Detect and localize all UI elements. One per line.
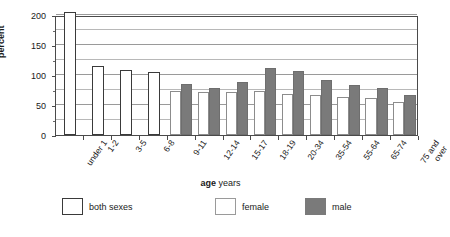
bar-group — [112, 17, 140, 135]
bar-male — [321, 80, 332, 135]
bar-group — [335, 17, 363, 135]
y-axis-title: percent — [0, 25, 6, 58]
bar-group — [224, 17, 252, 135]
bar-series-container — [56, 17, 417, 135]
bar-both-sexes — [148, 72, 160, 135]
y-tick-label: 150 — [31, 41, 46, 51]
x-tick-label: 9-11 — [191, 138, 209, 157]
bar-male — [265, 68, 276, 135]
bar-male — [404, 95, 415, 135]
bar-group — [168, 17, 196, 135]
bar-group — [251, 17, 279, 135]
x-axis-title-rest: years — [219, 178, 241, 188]
legend-item-male: male — [305, 198, 352, 215]
bar-group — [279, 17, 307, 135]
x-tick-label: under 1 — [85, 138, 110, 167]
bar-male — [293, 71, 304, 135]
x-tick-label: 1-2 — [105, 138, 120, 154]
bar-male — [181, 84, 192, 135]
x-axis-title-bold: age — [200, 178, 216, 188]
legend-swatch-both-icon — [62, 198, 83, 215]
bar-male — [237, 82, 248, 135]
y-axis-tick-labels: 050100150200 — [0, 16, 52, 136]
bar-female — [226, 92, 237, 135]
bar-male — [377, 88, 388, 135]
legend-swatch-male-icon — [305, 198, 326, 215]
bar-female — [282, 94, 293, 135]
bar-group — [140, 17, 168, 135]
x-tick-label: 20-34 — [305, 138, 326, 162]
plot-area — [55, 16, 418, 136]
x-tick-label: 65-74 — [389, 138, 410, 162]
bar-group — [363, 17, 391, 135]
bar-group — [56, 17, 84, 135]
legend-label: both sexes — [89, 202, 133, 212]
x-tick-label: 55-64 — [361, 138, 382, 162]
bar-female — [310, 95, 321, 135]
x-tick-label: 3-5 — [133, 138, 148, 154]
bar-male — [209, 88, 220, 135]
bar-male — [349, 85, 360, 135]
legend-swatch-female-icon — [215, 198, 236, 215]
bar-female — [393, 102, 404, 135]
y-tick-label: 50 — [36, 101, 46, 111]
bar-both-sexes — [92, 66, 104, 135]
y-tick-label: 100 — [31, 71, 46, 81]
legend-label: female — [242, 202, 269, 212]
bar-female — [254, 91, 265, 135]
x-axis-title: age years — [0, 178, 441, 188]
legend-label: male — [332, 202, 352, 212]
bar-female — [170, 91, 181, 135]
x-tick-label: 18-19 — [277, 138, 298, 162]
x-tick-label: 6-8 — [161, 138, 176, 154]
bar-group — [84, 17, 112, 135]
x-tick-label: 35-54 — [333, 138, 354, 162]
x-tick-label: 15-17 — [249, 138, 270, 162]
bar-both-sexes — [120, 70, 132, 135]
bar-female — [365, 98, 376, 135]
x-tick-label: 12-14 — [221, 138, 242, 162]
bar-group — [307, 17, 335, 135]
bar-female — [337, 97, 348, 135]
chart-legend: both sexesfemalemale — [0, 198, 441, 224]
bar-both-sexes — [64, 12, 76, 135]
y-tick-label: 200 — [31, 11, 46, 21]
bar-group — [196, 17, 224, 135]
legend-item-female: female — [215, 198, 269, 215]
legend-item-both: both sexes — [62, 198, 133, 215]
x-tick-label: 75 andover — [418, 138, 449, 171]
gridline-major — [56, 14, 417, 15]
bar-female — [198, 92, 209, 135]
bar-group — [391, 17, 419, 135]
